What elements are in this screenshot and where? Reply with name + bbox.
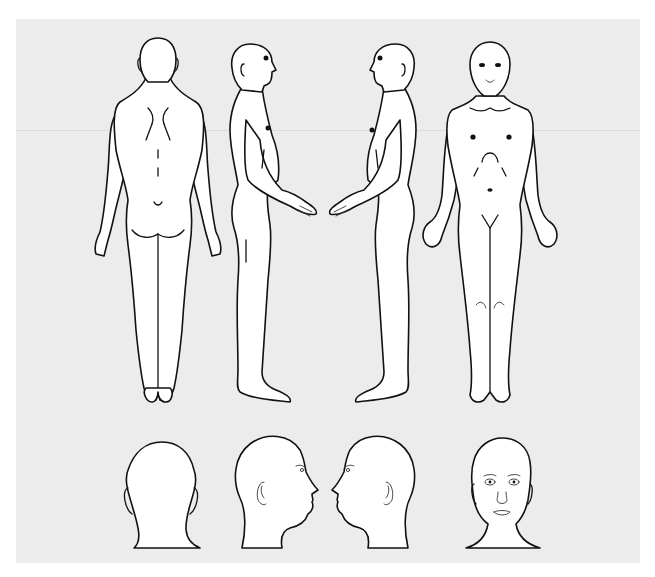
figure-posterior xyxy=(95,38,221,402)
figure-right-lateral xyxy=(230,44,316,402)
head-left-lateral xyxy=(332,436,415,548)
body-chart-diagram xyxy=(0,0,655,577)
head-anterior xyxy=(466,438,540,548)
figure-anterior xyxy=(423,42,557,402)
head-right-lateral xyxy=(235,436,318,548)
head-posterior xyxy=(125,442,200,548)
figure-left-lateral xyxy=(330,44,416,402)
